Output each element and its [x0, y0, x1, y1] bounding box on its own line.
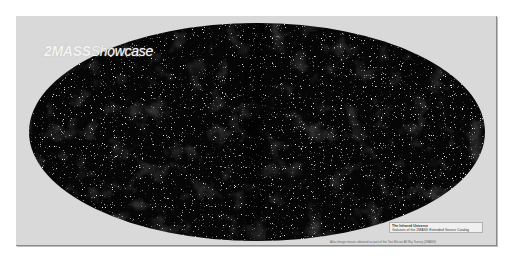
- title-box: The Infrared Universe Galaxies of the 2M…: [389, 222, 483, 233]
- logo-suffix: Showcase: [91, 43, 153, 59]
- image-frame: 2MASSShowcase: [16, 16, 497, 246]
- 2mass-showcase-logo: 2MASSShowcase: [44, 43, 153, 59]
- logo-prefix: 2MASS: [44, 43, 91, 59]
- subtitle: Galaxies of the 2MASS Extended Source Ca…: [392, 228, 480, 232]
- credit-line: Atlas Image mosaic obtained as part of t…: [330, 240, 436, 244]
